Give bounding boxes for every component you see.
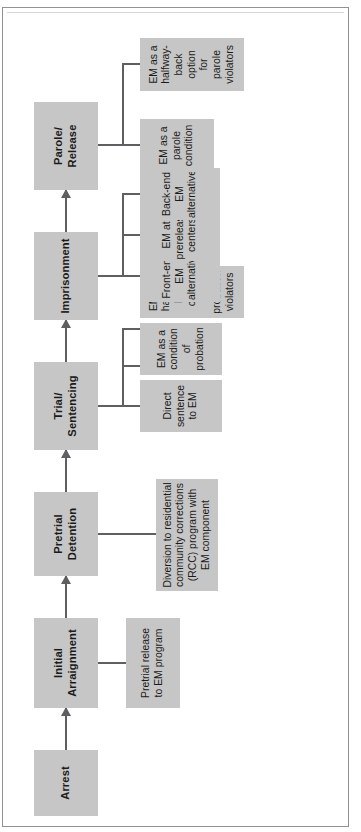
connector-arraignment-drop <box>98 662 126 664</box>
option-node-pretrial-release[interactable]: Pretrial release to EM program <box>126 618 180 708</box>
connector-prison-drop-3 <box>122 193 140 195</box>
connector-trial-drop-3 <box>122 328 140 330</box>
stage-node-arrest[interactable]: Arrest <box>34 750 98 816</box>
arrow-pretrial-to-trial <box>65 450 67 492</box>
connector-prison-drop-2 <box>122 234 140 236</box>
arrow-prison-to-parole <box>65 190 67 232</box>
stage-label-pretrial: Pretrial Detention <box>52 508 79 560</box>
stage-node-trial[interactable]: Trial/ Sentencing <box>34 362 98 450</box>
figure-page: Arrest Initial Arraignment Pretrial Dete… <box>0 0 361 832</box>
arrow-arraignment-to-pretrial <box>65 576 67 618</box>
option-node-rcc-diversion[interactable]: Diversion to residential community corre… <box>156 479 218 591</box>
connector-trial-stem <box>98 405 124 407</box>
connector-trial-spine <box>122 328 124 407</box>
option-label-rcc-diversion: Diversion to residential community corre… <box>161 482 212 587</box>
stage-label-trial: Trial/ Sentencing <box>52 375 79 436</box>
option-label-parole-condition: EM as a parole condition <box>157 125 195 167</box>
option-label-direct-sentence: Direct sentence to EM <box>161 385 199 427</box>
connector-trial-drop-2 <box>122 365 140 367</box>
connector-parole-stem <box>98 144 124 146</box>
stage-node-prison[interactable]: Imprisonment <box>34 232 98 320</box>
connector-prison-stem <box>98 275 124 277</box>
arrow-trial-to-prison <box>65 320 67 362</box>
stage-node-parole[interactable]: Parole/ Release <box>34 102 98 190</box>
connector-parole-drop-2 <box>122 63 140 65</box>
option-label-parole-halfway-back: EM as a halfway- back option for parole … <box>147 41 236 88</box>
arrow-arrest-to-arraignment <box>65 708 67 750</box>
stage-label-parole: Parole/ Release <box>52 125 79 168</box>
connector-prison-drop-1 <box>122 275 140 277</box>
option-node-parole-halfway-back[interactable]: EM as a halfway- back option for parole … <box>140 38 244 91</box>
option-node-probation-condition[interactable]: EM as a condition of probation <box>140 323 222 375</box>
stage-node-arraignment[interactable]: Initial Arraignment <box>34 618 98 708</box>
option-label-pretrial-release: Pretrial release to EM program <box>140 628 165 698</box>
connector-parole-drop-1 <box>122 144 140 146</box>
option-node-direct-sentence[interactable]: Direct sentence to EM <box>140 380 222 432</box>
option-label-probation-condition: EM as a condition of probation <box>155 326 206 372</box>
flowchart-canvas: Arrest Initial Arraignment Pretrial Dete… <box>12 10 350 822</box>
option-node-parole-condition[interactable]: EM as a parole condition <box>140 119 214 172</box>
stage-label-arrest: Arrest <box>59 766 73 800</box>
option-node-back-end-em[interactable]: Back-end EM alternative <box>140 168 220 220</box>
connector-trial-drop-1 <box>122 405 140 407</box>
connector-parole-spine <box>122 63 124 146</box>
option-label-back-end-em: Back-end EM alternative <box>160 170 198 218</box>
connector-pretrial-drop <box>98 533 156 535</box>
stage-label-prison: Imprisonment <box>59 238 73 313</box>
stage-label-arraignment: Initial Arraignment <box>52 629 79 697</box>
stage-node-pretrial[interactable]: Pretrial Detention <box>34 492 98 576</box>
